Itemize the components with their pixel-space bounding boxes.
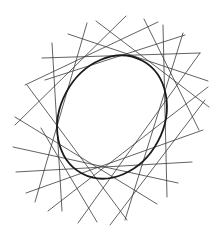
tangent-line: [48, 87, 208, 211]
tangent-line: [110, 100, 205, 225]
tangent-line: [27, 85, 127, 220]
tangent-line: [26, 130, 203, 193]
tangent-line: [35, 23, 87, 202]
tangent-line: [15, 16, 126, 125]
tangent-line: [125, 33, 183, 220]
tangent-line: [68, 34, 208, 81]
tangent-line: [144, 19, 199, 130]
tangent-lines-group: [13, 16, 209, 225]
ellipse-envelope-diagram: [0, 0, 221, 237]
